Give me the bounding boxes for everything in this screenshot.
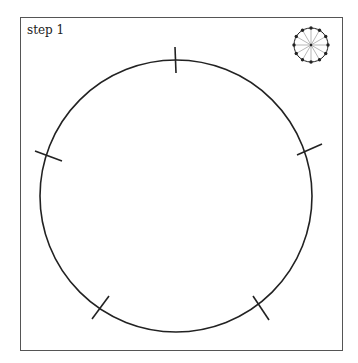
- main-circle: [40, 60, 312, 332]
- tick-mark: [92, 296, 109, 319]
- tick-mark: [35, 151, 62, 161]
- tick-mark: [253, 296, 269, 320]
- thumbnail-twelve-point-circle-icon: [292, 26, 329, 63]
- tick-mark: [297, 144, 322, 155]
- tick-mark: [175, 47, 176, 73]
- circle-diagram: [0, 0, 358, 363]
- tick-marks: [35, 47, 322, 320]
